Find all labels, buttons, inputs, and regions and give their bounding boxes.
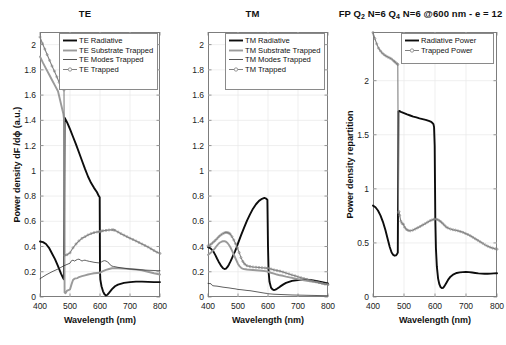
x-axis-label: Wavelength (nm) [373, 315, 497, 325]
legend-swatch-thick-black [62, 36, 78, 45]
xtick-label: 800 [321, 301, 335, 311]
xtick-label: 400 [201, 301, 215, 311]
ytick-label: 0 [170, 292, 204, 302]
legend-item[interactable]: TM Radiative [228, 36, 321, 46]
ytick-label: 0.8 [170, 191, 204, 201]
legend-item[interactable]: TM Modes Trapped [228, 55, 321, 65]
legend-swatch-thick-black [228, 36, 244, 45]
legend-label: TE Trapped [78, 65, 119, 75]
legend-te: TE RadiativeTE Substrate TrappedTE Modes… [59, 33, 158, 90]
xtick-label: 600 [428, 301, 442, 311]
legend-label: TE Modes Trapped [78, 55, 144, 65]
xtick-label: 400 [366, 301, 380, 311]
legend-swatch-thin-black [228, 55, 244, 64]
legend-label: TE Radiative [78, 36, 122, 46]
chart-title-tm: TM [170, 8, 335, 19]
chart-title-te: TE [0, 8, 170, 19]
ytick-label: 1.4 [170, 115, 204, 125]
ytick-label: 0.4 [170, 242, 204, 252]
legend-label: TE Substrate Trapped [78, 46, 153, 56]
legend-item[interactable]: Radiative Power [404, 36, 490, 46]
legend-swatch-thick-black [404, 36, 420, 45]
legend-item[interactable]: TE Radiative [62, 36, 154, 46]
chart-panel-te: TE00.20.40.60.811.21.41.61.8240050060070… [0, 0, 170, 345]
xtick-label: 800 [490, 301, 504, 311]
plot-area-fp [373, 32, 497, 297]
ytick-label: 2 [170, 40, 204, 50]
legend-swatch-thin-black [62, 55, 78, 64]
x-axis-label: Wavelength (nm) [40, 315, 160, 325]
legend-label: TM Substrate Trapped [244, 46, 321, 56]
ytick-label: 0.6 [170, 216, 204, 226]
ytick-label: 1 [170, 166, 204, 176]
legend-item[interactable]: TM Substrate Trapped [228, 46, 321, 56]
legend-item[interactable]: Trapped Power [404, 46, 490, 56]
legend-item[interactable]: TE Trapped [62, 65, 154, 75]
legend-swatch-gray-marker [228, 65, 244, 74]
xtick-label: 700 [459, 301, 473, 311]
legend-label: TM Trapped [244, 65, 286, 75]
xtick-label: 700 [291, 301, 305, 311]
legend-item[interactable]: TE Modes Trapped [62, 55, 154, 65]
x-axis-label: Wavelength (nm) [208, 315, 328, 325]
chart-panel-tm: TM00.20.40.60.811.21.41.61.8240050060070… [170, 0, 335, 345]
y-axis-label: Power density repartition [345, 32, 355, 297]
ytick-label: 0.2 [170, 267, 204, 277]
legend-swatch-gray-marker [62, 65, 78, 74]
xtick-label: 600 [261, 301, 275, 311]
legend-swatch-thick-gray [62, 46, 78, 55]
xtick-label: 800 [153, 301, 167, 311]
legend-label: Trapped Power [420, 46, 473, 56]
legend-item[interactable]: TE Substrate Trapped [62, 46, 154, 56]
xtick-label: 400 [33, 301, 47, 311]
legend-tm: TM RadiativeTM Substrate TrappedTM Modes… [225, 33, 325, 90]
xtick-label: 600 [93, 301, 107, 311]
legend-item[interactable]: TM Trapped [228, 65, 321, 75]
chart-title-fp: FP Q2 N=6 Q4 N=6 @600 nm - e = 12 [335, 8, 506, 20]
ytick-label: 1.2 [170, 141, 204, 151]
legend-swatch-gray-marker [404, 46, 420, 55]
legend-swatch-thick-gray [228, 46, 244, 55]
xtick-label: 700 [123, 301, 137, 311]
legend-fp: Radiative PowerTrapped Power [401, 33, 494, 64]
y-axis-label: Power density dF /dϕ (a.u.) [12, 32, 22, 297]
legend-label: Radiative Power [420, 36, 476, 46]
legend-label: TM Radiative [244, 36, 290, 46]
figure-root: TE00.20.40.60.811.21.41.61.8240050060070… [0, 0, 506, 345]
chart-panel-fp: FP Q2 N=6 Q4 N=6 @600 nm - e = 1200.511.… [335, 0, 506, 345]
ytick-label: 1.6 [170, 90, 204, 100]
xtick-label: 500 [397, 301, 411, 311]
xtick-label: 500 [231, 301, 245, 311]
legend-label: TM Modes Trapped [244, 55, 311, 65]
ytick-label: 1.8 [170, 65, 204, 75]
xtick-label: 500 [63, 301, 77, 311]
